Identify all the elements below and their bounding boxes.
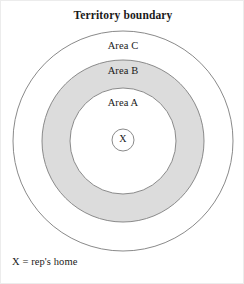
circle-home-marker xyxy=(112,129,134,151)
diagram-canvas: Territory boundary Area C Area B Area A … xyxy=(0,0,244,284)
legend-note: X = rep's home xyxy=(12,256,78,267)
concentric-circles-graphic xyxy=(1,1,244,284)
